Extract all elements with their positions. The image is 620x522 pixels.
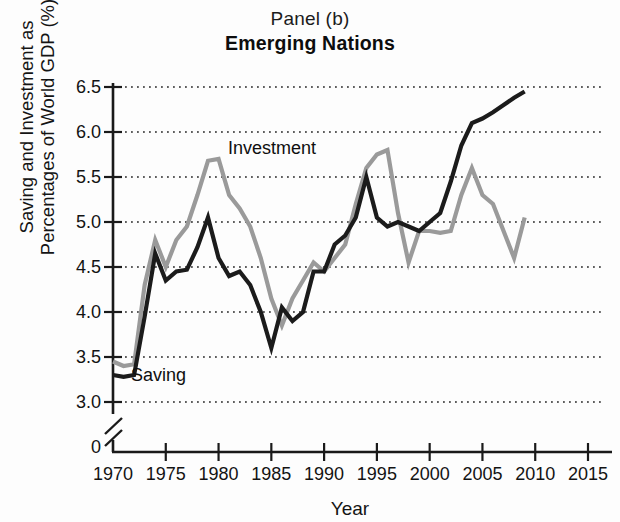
x-tick-label: 2015 — [568, 464, 608, 485]
x-tick-label: 1970 — [93, 464, 133, 485]
y-tick-label-zero: 0 — [55, 437, 101, 458]
x-tick-label: 2005 — [462, 464, 502, 485]
chart-figure: Panel (b) Emerging Nations Saving and In… — [0, 0, 620, 522]
y-tick-label: 6.5 — [55, 77, 101, 98]
y-tick-label: 5.5 — [55, 167, 101, 188]
y-tick-label: 5.0 — [55, 212, 101, 233]
x-tick-label: 2000 — [410, 464, 450, 485]
series-label-investment: Investment — [228, 138, 316, 159]
y-tick-label: 4.0 — [55, 302, 101, 323]
series-line-saving — [113, 92, 525, 377]
series-label-saving: Saving — [131, 365, 186, 386]
x-tick-label: 1975 — [146, 464, 186, 485]
y-tick-label: 6.0 — [55, 122, 101, 143]
y-tick-label: 4.5 — [55, 257, 101, 278]
y-tick-label: 3.5 — [55, 347, 101, 368]
plot-area: 6.56.05.55.04.54.03.53.00197019751980198… — [0, 0, 620, 522]
series-line-investment — [113, 150, 525, 366]
x-tick-label: 1985 — [251, 464, 291, 485]
y-tick-label: 3.0 — [55, 392, 101, 413]
x-tick-label: 2010 — [515, 464, 555, 485]
x-tick-label: 1990 — [304, 464, 344, 485]
x-tick-label: 1995 — [357, 464, 397, 485]
x-tick-label: 1980 — [199, 464, 239, 485]
